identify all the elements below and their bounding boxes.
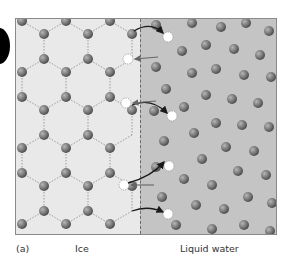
- liquid-molecules: [149, 19, 277, 235]
- diagram-frame: [15, 18, 277, 235]
- ice-molecules: [17, 19, 137, 229]
- hydrogen-bonds: [22, 21, 132, 224]
- section-bullet: [0, 28, 10, 64]
- panel-label: (a): [16, 243, 29, 254]
- transitioning-molecules: [119, 32, 177, 219]
- ice-label: Ice: [75, 243, 89, 254]
- molecule-illustration: [16, 19, 277, 235]
- liquid-water-label: Liquid water: [180, 243, 239, 254]
